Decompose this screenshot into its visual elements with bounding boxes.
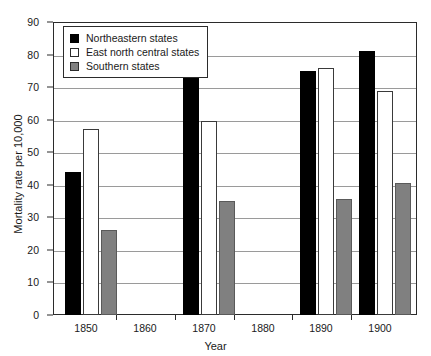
bar-1890-east-north-central xyxy=(318,68,334,315)
bar-1870-east-north-central xyxy=(201,121,217,315)
bar-1900-east-north-central xyxy=(377,91,393,316)
bar-1900-southern xyxy=(395,183,411,315)
bar-1870-northeastern xyxy=(183,53,199,315)
legend: Northeastern states East north central s… xyxy=(63,26,208,78)
bar-1890-northeastern xyxy=(300,71,316,315)
legend-swatch-black-square-icon xyxy=(70,34,79,43)
bar-1850-northeastern xyxy=(65,172,81,315)
legend-swatch-white-square-icon xyxy=(70,48,79,57)
bar-1850-southern xyxy=(101,230,117,315)
y-tick-label-50: 50 xyxy=(27,146,39,158)
x-tick-label-1880: 1880 xyxy=(251,322,274,334)
y-tick-label-20: 20 xyxy=(27,244,39,256)
y-tick-label-10: 10 xyxy=(27,276,39,288)
legend-item-northeastern: Northeastern states xyxy=(70,31,199,45)
y-tick-label-0: 0 xyxy=(33,309,39,321)
x-tick-label-1900: 1900 xyxy=(368,322,391,334)
legend-item-southern: Southern states xyxy=(70,59,199,73)
legend-swatch-gray-square-icon xyxy=(70,62,79,71)
plot-area: Northeastern states East north central s… xyxy=(53,22,417,315)
x-tick-label-1860: 1860 xyxy=(133,322,156,334)
x-tick-mark xyxy=(351,315,352,320)
bar-1850-east-north-central xyxy=(83,129,99,315)
legend-label: Southern states xyxy=(86,60,160,72)
bar-1900-northeastern xyxy=(359,51,375,315)
legend-label: East north central states xyxy=(86,46,199,58)
x-axis-title: Year xyxy=(0,340,431,352)
x-tick-label-1870: 1870 xyxy=(192,322,215,334)
bar-1870-southern xyxy=(219,201,235,315)
bar-1890-southern xyxy=(336,199,352,315)
legend-label: Northeastern states xyxy=(86,32,178,44)
y-axis: 0 10 20 30 40 50 60 70 80 90 xyxy=(0,0,48,356)
x-tick-label-1890: 1890 xyxy=(309,322,332,334)
x-tick-mark xyxy=(292,315,293,320)
y-tick-label-70: 70 xyxy=(27,81,39,93)
x-tick-mark xyxy=(234,315,235,320)
bar-chart: 0 10 20 30 40 50 60 70 80 90 Mortality r… xyxy=(0,0,431,356)
x-tick-mark xyxy=(116,315,117,320)
x-tick-label-1850: 1850 xyxy=(74,322,97,334)
y-tick-label-90: 90 xyxy=(27,16,39,28)
y-tick-label-80: 80 xyxy=(27,49,39,61)
y-tick-label-40: 40 xyxy=(27,179,39,191)
x-tick-mark xyxy=(175,315,176,320)
y-tick-label-30: 30 xyxy=(27,211,39,223)
y-tick-label-60: 60 xyxy=(27,114,39,126)
y-axis-title: Mortality rate per 10,000 xyxy=(12,64,24,284)
legend-item-east-north-central: East north central states xyxy=(70,45,199,59)
